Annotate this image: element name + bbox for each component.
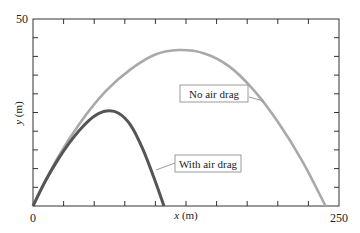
x-tick-label-0: 0 — [30, 211, 36, 225]
with-air-drag-curve — [33, 111, 164, 206]
y-tick-label-50: 50 — [16, 12, 28, 26]
y-axis-label: y (m) — [12, 101, 25, 126]
with-drag-callout-label: With air drag — [179, 158, 238, 170]
trajectory-chart: 50 0 250 x (m) y (m) No air drag With ai… — [0, 0, 360, 233]
no-air-drag-curve — [33, 50, 326, 206]
x-axis-unit: (m) — [179, 209, 198, 222]
x-axis-label: x (m) — [173, 209, 198, 222]
plot-frame — [33, 19, 339, 206]
axis-ticks — [33, 19, 339, 206]
no-drag-callout-label: No air drag — [189, 88, 240, 100]
with-drag-leader-line — [156, 163, 175, 170]
y-axis-unit: (m) — [12, 101, 25, 120]
x-tick-label-250: 250 — [330, 211, 348, 225]
